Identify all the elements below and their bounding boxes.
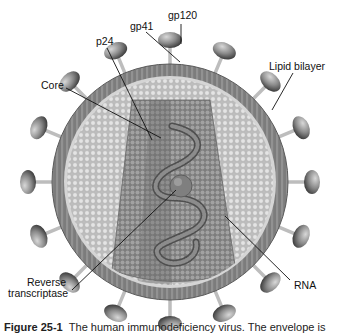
gp120-head bbox=[289, 114, 313, 142]
label-gp41: gp41 bbox=[130, 21, 153, 32]
label-lipid-bilayer: Lipid bilayer bbox=[269, 61, 325, 72]
gp120-head bbox=[27, 222, 51, 250]
label-gp120: gp120 bbox=[168, 10, 197, 21]
gp120-head bbox=[20, 170, 36, 194]
gp120-head bbox=[210, 39, 238, 63]
gp120-head bbox=[304, 170, 320, 194]
gp120-head bbox=[289, 222, 313, 250]
label-reverse-transcriptase: Reverse transcriptase bbox=[8, 277, 66, 299]
label-rna: RNA bbox=[294, 280, 316, 291]
caption-text: The human immunodeficiency virus. The en… bbox=[69, 321, 326, 333]
figure-caption: Figure 25-1 The human immunodeficiency v… bbox=[4, 321, 325, 333]
label-p24: p24 bbox=[96, 36, 114, 47]
label-core: Core bbox=[41, 80, 64, 91]
figure-number: Figure 25-1 bbox=[4, 321, 63, 333]
gp120-head bbox=[27, 114, 51, 142]
reverse-transcriptase-shape bbox=[170, 175, 192, 197]
